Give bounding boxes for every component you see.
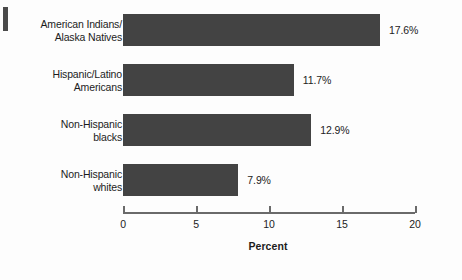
x-axis-title: Percent [0, 240, 462, 252]
bar-chart: American Indians/ Alaska Natives 17.6% H… [0, 0, 462, 280]
bar-value-label: 11.7% [303, 74, 332, 86]
x-axis-title-text: Percent [248, 240, 287, 252]
x-axis-tick [415, 206, 417, 213]
category-label: Non-Hispanic blacks [10, 118, 122, 143]
bar [123, 14, 380, 46]
bar-value-label: 17.6% [389, 24, 418, 36]
x-axis-tick-label: 5 [193, 218, 199, 230]
x-axis-tick [342, 206, 344, 213]
x-axis-tick-label: 15 [336, 218, 347, 230]
bar [123, 164, 238, 196]
category-label: Non-Hispanic whites [10, 168, 122, 193]
x-axis-tick-label: 20 [409, 218, 420, 230]
bar-value-label: 7.9% [247, 174, 271, 186]
x-axis-tick [123, 206, 125, 213]
category-label: Hispanic/Latino Americans [10, 68, 122, 93]
bar [123, 64, 294, 96]
x-axis-tick [269, 206, 271, 213]
category-label: American Indians/ Alaska Natives [10, 18, 122, 43]
x-axis-tick [196, 206, 198, 213]
x-axis-tick-label: 10 [263, 218, 274, 230]
plot-area: American Indians/ Alaska Natives 17.6% H… [0, 0, 462, 280]
bar-value-label: 12.9% [320, 124, 349, 136]
x-axis-tick-label: 0 [120, 218, 126, 230]
bar [123, 114, 311, 146]
